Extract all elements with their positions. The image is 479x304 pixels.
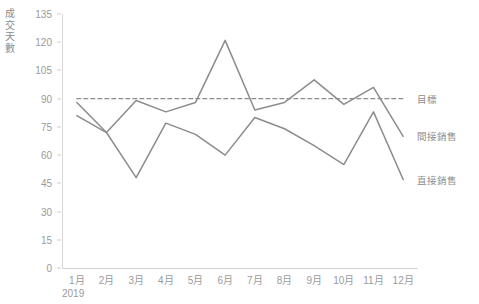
y-tick-mark: [57, 126, 61, 127]
y-tick-mark: [57, 42, 61, 43]
line-chart: 成交天數 0153045607590105120135 1月2月3月4月5月6月…: [0, 0, 479, 304]
y-tick-mark: [57, 211, 61, 212]
y-tick-mark: [57, 155, 61, 156]
y-tick-mark: [57, 239, 61, 240]
series-plot-area: [0, 0, 479, 304]
legend-label-direct: 直接銷售: [417, 173, 457, 187]
y-tick-mark: [57, 70, 61, 71]
series-line: [77, 40, 403, 136]
legend-label-target: 目標: [417, 92, 437, 106]
y-tick-mark: [57, 268, 61, 269]
y-tick-mark: [57, 14, 61, 15]
y-tick-mark: [57, 98, 61, 99]
series-line: [77, 112, 403, 180]
y-tick-mark: [57, 183, 61, 184]
legend-label-indirect: 間接銷售: [417, 129, 457, 143]
